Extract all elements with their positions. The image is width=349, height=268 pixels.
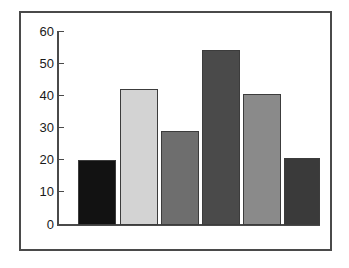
- y-tick-mark-30: [59, 127, 64, 128]
- bar-3[interactable]: [161, 131, 199, 225]
- figure-root: 60 50 40 30 20 10 0: [0, 0, 349, 268]
- y-tick-mark-20: [59, 159, 64, 160]
- y-tick-label-20: 20: [26, 153, 54, 166]
- y-axis-line: [57, 31, 59, 225]
- y-tick-mark-60: [59, 31, 64, 32]
- y-tick-mark-50: [59, 63, 64, 64]
- y-tick-mark-40: [59, 95, 64, 96]
- y-tick-label-60: 60: [26, 25, 54, 38]
- bar-2[interactable]: [120, 89, 158, 225]
- y-tick-label-10: 10: [26, 185, 54, 198]
- bar-4[interactable]: [202, 50, 240, 225]
- y-tick-label-30: 30: [26, 121, 54, 134]
- y-tick-label-0: 0: [26, 218, 54, 231]
- y-tick-mark-10: [59, 191, 64, 192]
- bar-6[interactable]: [284, 158, 320, 225]
- bar-1[interactable]: [78, 160, 116, 225]
- y-tick-label-50: 50: [26, 57, 54, 70]
- y-tick-label-40: 40: [26, 89, 54, 102]
- plot-area: 60 50 40 30 20 10 0: [0, 0, 349, 268]
- bar-5[interactable]: [243, 94, 281, 225]
